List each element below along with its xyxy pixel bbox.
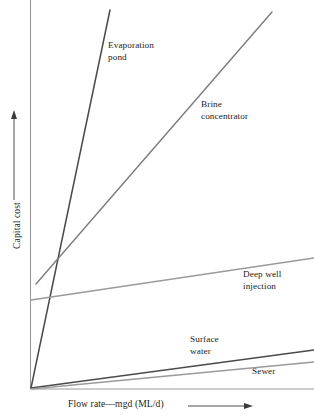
y-axis-direction-arrow-icon	[11, 110, 17, 200]
series-label-sewer: Sewer	[252, 366, 275, 378]
x-axis-direction-arrow-icon	[188, 403, 253, 409]
y-axis-title: Capital cost	[11, 191, 22, 261]
series-label-brine-concentrator: Brine concentrator	[201, 99, 248, 122]
x-axis-title: Flow rate—mgd (ML/d)	[68, 398, 164, 409]
series-line-evaporation-pond	[31, 10, 110, 388]
series-label-deep-well-injection: Deep well injection	[243, 269, 281, 292]
series-label-evaporation-pond: Evaporation pond	[108, 40, 154, 63]
capital-cost-vs-flow-rate-chart: Evaporation pond Brine concentrator Deep…	[0, 0, 314, 418]
chart-plot-area	[0, 0, 314, 418]
series-label-surface-water: Surface water	[190, 334, 219, 357]
